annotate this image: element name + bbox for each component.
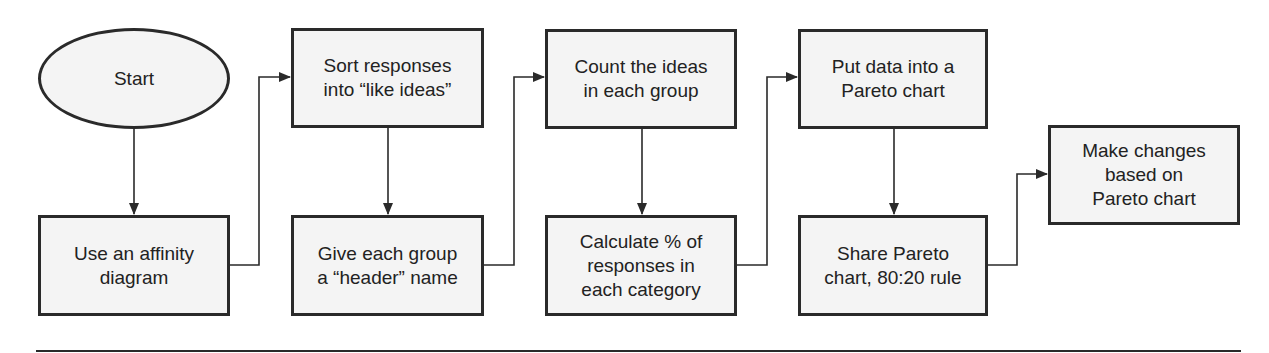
pareto-chart-node: Put data into a Pareto chart [798,29,988,129]
node-label: Use an affinity diagram [74,242,194,290]
edge-calculate-pareto [737,77,797,265]
node-label: Count the ideas in each group [574,55,707,103]
header-name-node: Give each group a “header” name [291,215,484,316]
start-node: Start [38,28,230,129]
edge-share-changes [988,174,1047,265]
edge-header-count [484,77,544,265]
count-ideas-node: Count the ideas in each group [545,29,737,129]
sort-responses-node: Sort responses into “like ideas” [291,28,484,128]
make-changes-node: Make changes based on Pareto chart [1048,125,1240,225]
node-label: Give each group a “header” name [317,242,457,290]
node-label: Make changes based on Pareto chart [1082,139,1206,211]
flowchart-canvas: Start Use an affinity diagram Sort respo… [0,0,1269,353]
node-label: Start [114,67,154,91]
node-label: Share Pareto chart, 80:20 rule [824,242,961,290]
calculate-percent-node: Calculate % of responses in each categor… [545,215,737,316]
node-label: Calculate % of responses in each categor… [580,230,703,302]
node-label: Put data into a Pareto chart [832,55,955,103]
share-pareto-node: Share Pareto chart, 80:20 rule [798,215,988,316]
edge-affinity-sort [230,77,290,265]
node-label: Sort responses into “like ideas” [324,54,452,102]
affinity-diagram-node: Use an affinity diagram [38,215,230,316]
